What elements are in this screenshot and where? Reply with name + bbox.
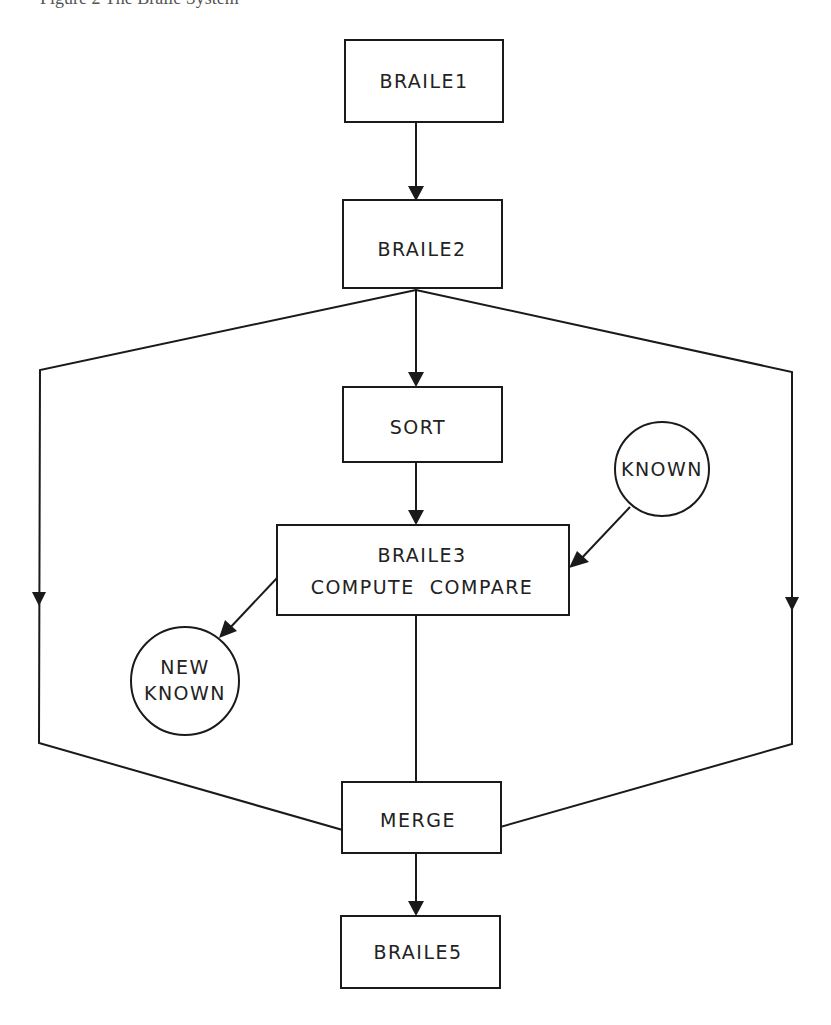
node-braile2: BRAILE2 [343,200,502,288]
node-label: COMPUTE COMPARE [311,576,534,598]
node-sort: SORT [343,387,502,462]
flowchart: BRAILE1 BRAILE2 SORT KNOWN BRAILE3 COMPU… [0,0,831,1025]
arrowhead-icon [408,372,424,387]
node-label: BRAILE1 [379,70,468,92]
node-label: MERGE [380,809,456,831]
node-label: NEW [160,656,210,678]
arrowhead-icon [408,510,424,525]
node-label: BRAILE3 [377,544,466,566]
arrowhead-icon [408,901,424,916]
node-braile5: BRAILE5 [341,916,500,988]
arrowhead-icon [32,592,46,606]
node-label: BRAILE2 [377,238,466,260]
node-label: KNOWN [621,458,703,480]
arrowhead-icon [785,597,799,611]
node-label: SORT [390,416,446,438]
node-known: KNOWN [615,422,709,516]
node-braile3: BRAILE3 COMPUTE COMPARE [277,525,569,615]
node-merge: MERGE [342,782,501,853]
node-braile1: BRAILE1 [345,40,503,122]
node-new-known: NEW KNOWN [131,627,239,735]
node-label: KNOWN [144,682,226,704]
edge-known-braile3 [578,507,630,562]
arrowhead-icon [408,186,424,201]
edge-braile3-newknown [228,578,277,630]
node-label: BRAILE5 [373,941,462,963]
